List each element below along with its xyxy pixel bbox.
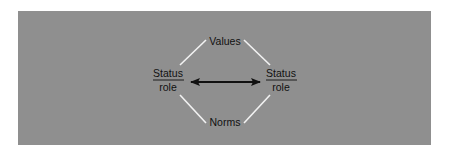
node-norms: Norms: [210, 116, 241, 128]
node-left-status-role: Status role: [153, 67, 184, 93]
node-right-status-role: Status role: [266, 67, 297, 93]
edge-left-to-values: [180, 40, 206, 65]
right-status-label: Status: [266, 67, 296, 79]
status-role-diagram: Values Norms Status role Status role: [0, 0, 449, 153]
node-values: Values: [209, 35, 240, 47]
left-status-label: Status: [153, 67, 183, 79]
edge-norms-to-right: [244, 95, 270, 123]
right-role-label: role: [272, 81, 290, 93]
left-role-label: role: [159, 81, 177, 93]
edge-left-to-norms: [180, 95, 206, 123]
edge-values-to-right: [244, 40, 270, 65]
